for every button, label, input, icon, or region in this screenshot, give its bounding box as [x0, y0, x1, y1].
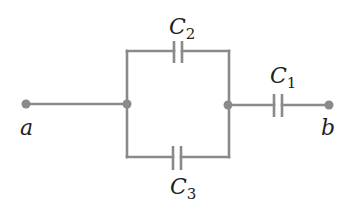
terminal-b-label: b [321, 115, 335, 140]
capacitor-c2-symbol [174, 41, 182, 63]
left-junction-node [123, 100, 132, 109]
terminal-b-node [325, 101, 334, 110]
right-junction-node [224, 101, 233, 110]
capacitor-c1-label: C1 [270, 63, 296, 92]
capacitor-c1-symbol [274, 94, 282, 117]
circuit-diagram: a b C2 C3 C1 [0, 0, 362, 218]
capacitor-c2-label: C2 [169, 14, 195, 43]
terminal-a-label: a [20, 115, 33, 140]
capacitor-c3-symbol [173, 146, 181, 170]
capacitor-c3-label: C3 [170, 174, 196, 203]
terminal-a-node [22, 100, 31, 109]
